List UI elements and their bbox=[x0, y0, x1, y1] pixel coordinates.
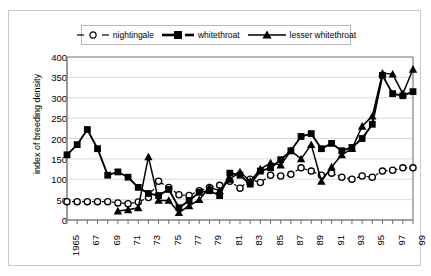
x-tick-label: 83 bbox=[253, 235, 264, 246]
x-tick-label: 89 bbox=[314, 235, 325, 246]
x-tick-label: 81 bbox=[233, 235, 244, 246]
plot-area bbox=[9, 11, 420, 265]
x-tick-label: 95 bbox=[375, 235, 386, 246]
x-tick-label: 79 bbox=[212, 235, 223, 246]
x-tick-label: 1965 bbox=[70, 235, 81, 256]
x-tick-label: 93 bbox=[355, 235, 366, 246]
x-tick-label: 91 bbox=[335, 235, 346, 246]
x-tick-label: 99 bbox=[416, 235, 427, 246]
x-tick-label: 97 bbox=[396, 235, 407, 246]
x-tick-label: 77 bbox=[192, 235, 203, 246]
x-tick-label: 87 bbox=[294, 235, 305, 246]
x-tick-label: 75 bbox=[172, 235, 183, 246]
x-tick-label: 69 bbox=[111, 235, 122, 246]
x-tick-label: 73 bbox=[151, 235, 162, 246]
x-tick-label: 67 bbox=[90, 235, 101, 246]
x-tick-label: 71 bbox=[131, 235, 142, 246]
x-tick-label: 85 bbox=[274, 235, 285, 246]
chart-frame: nightingale whitethroat lesser whitethro… bbox=[8, 10, 421, 266]
x-axis-ticks: 19656769717375777981838587899193959799 bbox=[9, 235, 431, 276]
